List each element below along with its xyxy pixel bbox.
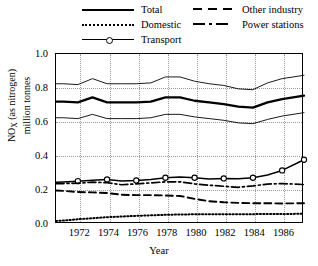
legend-label-power-stations: Power stations [242, 19, 304, 30]
series-marker-transport [250, 175, 255, 180]
legend-label-transport: Transport [141, 34, 181, 45]
series-line-domestic [56, 214, 304, 221]
series-line-total-upper-bound [56, 75, 304, 89]
legend-key-other-industry-dashed-icon [193, 3, 235, 15]
y-tick-label-5: 0.2 [14, 184, 48, 195]
legend-key-domestic-dotted-icon [82, 18, 134, 30]
series-line-total-lower-bound [56, 113, 304, 124]
legend-item-other-industry: Other industry [193, 3, 303, 15]
legend-item-domestic: Domestic [82, 18, 181, 30]
series-line-total [56, 96, 304, 108]
x-tick-label-1986: 1986 [263, 227, 303, 238]
x-axis-title: Year [0, 245, 318, 256]
y-axis-title-subscript: X [10, 122, 19, 127]
plot-area [55, 53, 303, 223]
legend-key-total-solid-thick-icon [82, 3, 134, 15]
series-marker-transport [301, 157, 306, 162]
legend-label-domestic: Domestic [141, 19, 181, 30]
y-axis-title-rest: (as nitrogen) [6, 69, 17, 122]
series-line-power-stations [56, 182, 304, 187]
series-marker-transport [134, 178, 139, 183]
y-axis-title: NOX (as nitrogen) million tonnes [6, 31, 33, 181]
legend-item-transport: Transport [82, 33, 181, 45]
legend-item-total: Total [82, 3, 162, 15]
data-series-layer [56, 54, 304, 224]
series-marker-transport [221, 176, 226, 181]
y-axis-title-nox: NO [6, 128, 17, 142]
series-marker-transport [280, 168, 285, 173]
series-line-transport [56, 160, 304, 183]
series-marker-transport [104, 177, 109, 182]
series-marker-transport [163, 175, 168, 180]
legend-item-power-stations: Power stations [193, 18, 304, 30]
legend-key-transport-marker-icon [82, 33, 134, 45]
series-line-other-industry [56, 191, 304, 204]
legend-key-power-stations-dashdot-icon [193, 18, 235, 30]
legend-label-total: Total [141, 4, 162, 15]
nox-emissions-chart: Total Domestic Transport Othe [0, 0, 318, 266]
legend-label-other-industry: Other industry [242, 4, 303, 15]
series-marker-transport [192, 175, 197, 180]
y-axis-title-line2: million tonnes [21, 31, 33, 181]
y-tick-label-6: 0.0 [14, 218, 48, 229]
